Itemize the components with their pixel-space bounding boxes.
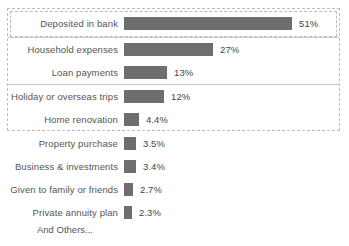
bar-group: 51%	[124, 12, 318, 35]
bar-value-label: 2.7%	[140, 184, 162, 195]
bar-category-label: Private annuity plan	[0, 207, 124, 218]
horizontal-bar-chart: Deposited in bank 51% Household expenses…	[0, 0, 349, 246]
bar-row: Business & investments 3.4%	[0, 155, 349, 178]
bar	[124, 137, 136, 150]
bar-row: Property purchase 3.5%	[0, 132, 349, 155]
bar-value-label: 12%	[171, 91, 190, 102]
bar-value-label: 2.3%	[139, 207, 161, 218]
bar-category-label: Business & investments	[0, 161, 124, 172]
bar-group: 27%	[124, 38, 239, 61]
bar-category-label: Property purchase	[0, 138, 124, 149]
bar-value-label: 51%	[299, 18, 318, 29]
bar-group: 13%	[124, 61, 193, 84]
bar-group: 3.5%	[124, 132, 165, 155]
bar-value-label: 3.4%	[143, 161, 165, 172]
bar-row: Private annuity plan 2.3%	[0, 201, 349, 224]
bar-group: 3.4%	[124, 155, 165, 178]
bar	[124, 90, 164, 103]
bar-group: 12%	[124, 85, 190, 108]
bar-row: Holiday or overseas trips 12%	[0, 85, 349, 108]
bar-row: Home renovation 4.4%	[0, 108, 349, 131]
bar-category-label: Given to family or friends	[0, 184, 124, 195]
bar	[124, 160, 136, 173]
bar-value-label: 4.4%	[146, 114, 168, 125]
bar-value-label: 27%	[220, 44, 239, 55]
bar-group: 4.4%	[124, 108, 168, 131]
bar	[124, 66, 167, 79]
bar-row: Deposited in bank 51%	[0, 12, 349, 35]
bar-row: Given to family or friends 2.7%	[0, 178, 349, 201]
bar-category-label: Home renovation	[0, 114, 124, 125]
bar-category-label: Deposited in bank	[0, 18, 124, 29]
bar-row: Loan payments 13%	[0, 61, 349, 84]
and-others-note: And Others...	[0, 224, 130, 235]
bar	[124, 17, 292, 30]
bar-category-label: Household expenses	[0, 44, 124, 55]
bar-group: 2.7%	[124, 178, 162, 201]
bar-category-label: Loan payments	[0, 67, 124, 78]
bar	[124, 43, 213, 56]
bar	[124, 206, 132, 219]
bar-row: Household expenses 27%	[0, 38, 349, 61]
bar-category-label: Holiday or overseas trips	[0, 91, 124, 102]
bar-group: 2.3%	[124, 201, 161, 224]
bar-value-label: 13%	[174, 67, 193, 78]
bar	[124, 183, 133, 196]
bar	[124, 113, 139, 126]
bar-value-label: 3.5%	[143, 138, 165, 149]
